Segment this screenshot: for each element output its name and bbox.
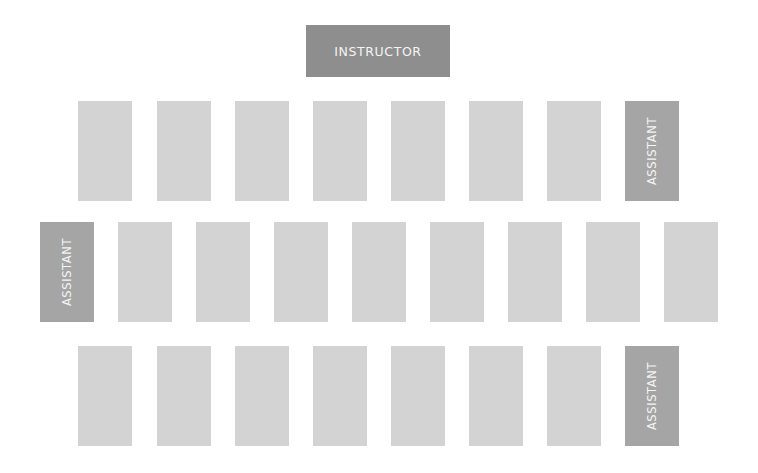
student-seat xyxy=(469,101,523,201)
student-seat xyxy=(391,101,445,201)
student-seat xyxy=(469,346,523,446)
student-seat xyxy=(508,222,562,322)
instructor-desk: INSTRUCTOR xyxy=(306,25,450,77)
assistant-desk: ASSISTANT xyxy=(625,101,679,201)
student-seat xyxy=(313,101,367,201)
row-2: ASSISTANT xyxy=(0,222,758,322)
assistant-label: ASSISTANT xyxy=(645,362,659,430)
student-seat xyxy=(586,222,640,322)
student-seat xyxy=(157,346,211,446)
student-seat xyxy=(664,222,718,322)
student-seat xyxy=(547,101,601,201)
student-seat xyxy=(196,222,250,322)
student-seat xyxy=(157,101,211,201)
row-3: ASSISTANT xyxy=(0,346,758,446)
student-seat xyxy=(391,346,445,446)
student-seat xyxy=(235,346,289,446)
student-seat xyxy=(78,101,132,201)
student-seat xyxy=(352,222,406,322)
student-seat xyxy=(118,222,172,322)
student-seat xyxy=(313,346,367,446)
student-seat xyxy=(78,346,132,446)
assistant-desk: ASSISTANT xyxy=(40,222,94,322)
student-seat xyxy=(235,101,289,201)
instructor-label: INSTRUCTOR xyxy=(334,44,421,59)
seating-diagram: INSTRUCTOR ASSISTANTASSISTANTASSISTANT xyxy=(0,0,758,473)
row-1: ASSISTANT xyxy=(0,101,758,201)
assistant-label: ASSISTANT xyxy=(60,238,74,306)
assistant-desk: ASSISTANT xyxy=(625,346,679,446)
student-seat xyxy=(547,346,601,446)
student-seat xyxy=(430,222,484,322)
student-seat xyxy=(274,222,328,322)
assistant-label: ASSISTANT xyxy=(645,117,659,185)
